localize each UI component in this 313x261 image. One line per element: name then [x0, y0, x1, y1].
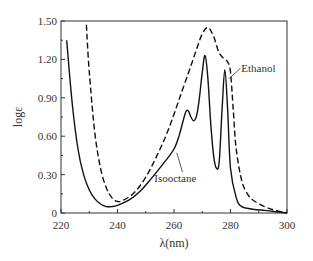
y-tick-label: 0.30 — [38, 169, 58, 181]
x-tick-label: 240 — [109, 219, 126, 231]
isooctane-label: Isooctane — [154, 172, 196, 184]
ethanol-label: Ethanol — [241, 62, 275, 74]
ethanol-curve — [86, 25, 287, 213]
y-tick-label: 0 — [52, 207, 58, 219]
isooctane-leader-line — [177, 153, 183, 172]
x-axis-title: λ(nm) — [159, 236, 188, 250]
y-tick-label: 1.50 — [38, 15, 58, 27]
y-axis-title: logε — [11, 107, 25, 127]
y-tick-label: 0.60 — [38, 130, 58, 142]
y-tick-label: 0.90 — [38, 92, 58, 104]
absorption-spectrum-chart: 22024026028030000.300.600.901.201.50λ(nm… — [0, 0, 313, 261]
x-tick-label: 220 — [53, 219, 70, 231]
x-tick-label: 300 — [279, 219, 296, 231]
x-tick-label: 280 — [222, 219, 239, 231]
x-tick-label: 260 — [166, 219, 183, 231]
y-tick-label: 1.20 — [38, 53, 58, 65]
